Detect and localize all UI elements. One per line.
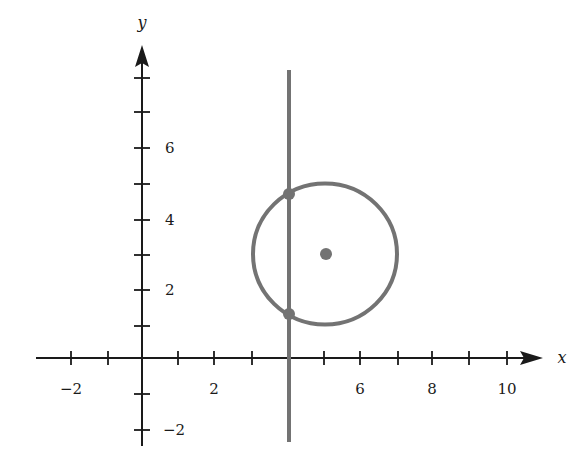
x-axis: −2 2 6 8 10 x bbox=[36, 348, 567, 398]
upper-intersection-point bbox=[283, 188, 295, 200]
center-point bbox=[320, 248, 332, 260]
y-tick-label: −2 bbox=[163, 421, 185, 439]
y-tick-label: 4 bbox=[165, 211, 175, 229]
x-tick-label: 10 bbox=[497, 380, 516, 398]
x-tick-label: 2 bbox=[209, 380, 219, 398]
y-axis-label: y bbox=[136, 13, 147, 32]
y-tick-label: 6 bbox=[165, 139, 175, 157]
lower-intersection-point bbox=[283, 308, 295, 320]
x-tick-label: −2 bbox=[60, 380, 82, 398]
y-tick-label: 2 bbox=[165, 281, 175, 299]
x-tick-label: 6 bbox=[355, 380, 365, 398]
y-axis: 6 4 2 −2 y bbox=[134, 13, 185, 446]
x-axis-label: x bbox=[557, 348, 566, 367]
coordinate-plane-figure: −2 2 6 8 10 x 6 4 bbox=[0, 0, 585, 476]
x-tick-label: 8 bbox=[427, 380, 437, 398]
